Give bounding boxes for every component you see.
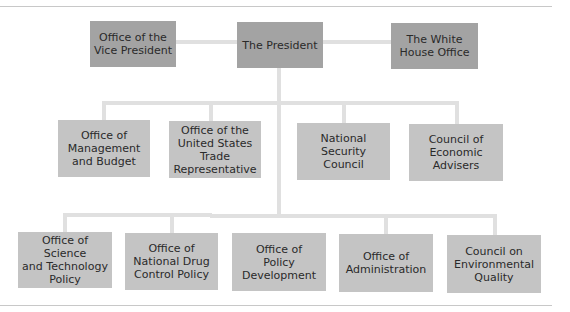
ceq-box: Council on Environmental Quality [447, 235, 541, 293]
ondcp-box: Office of National Drug Control Policy [125, 233, 218, 290]
vice-president-box: Office of the Vice President [90, 21, 176, 67]
connector-ostp [63, 213, 67, 233]
connector-bottom-horizontal-right [210, 214, 497, 218]
connector-oa [384, 215, 388, 235]
connector-ondcp [170, 213, 174, 234]
white-house-office-box: The White House Office [391, 23, 478, 69]
connector-president-vertical [277, 67, 281, 217]
connector-cea [455, 101, 459, 124]
oa-box: Office of Administration [339, 234, 433, 292]
top-rule [0, 6, 552, 7]
connector-omb [102, 101, 106, 121]
president-box: The President [237, 22, 323, 68]
omb-box: Office of Management and Budget [58, 120, 150, 177]
nsc-box: National Security Council [297, 123, 390, 180]
connector-nsc [342, 101, 346, 123]
ustr-box: Office of the United States Trade Repres… [169, 121, 261, 178]
opd-box: Office of Policy Development [232, 233, 326, 291]
connector-bottom-horizontal [63, 213, 212, 217]
bottom-rule [0, 305, 552, 306]
cea-box: Council of Economic Advisers [409, 124, 503, 181]
connector-ustr [209, 101, 213, 121]
ostp-box: Office of Science and Technology Policy [18, 232, 112, 288]
connector-ceq [493, 215, 497, 236]
connector-middle-horizontal [102, 101, 459, 105]
